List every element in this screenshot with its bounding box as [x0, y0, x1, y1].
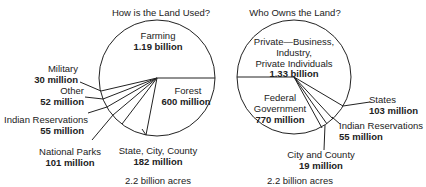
national-parks-label: National Parks [30, 146, 110, 157]
military-label: Military [10, 63, 78, 74]
states-label: States [369, 94, 426, 105]
indian-reservations-label-right: Indian Reservations [339, 120, 426, 131]
forest-value: 600 million [156, 96, 216, 107]
forest-label: Forest [160, 85, 216, 96]
private-label-line1: Private—Business, [244, 36, 344, 47]
private-label-line2: Industry, [244, 47, 344, 58]
federal-label-line2: Government [250, 103, 310, 114]
state-city-county-label: State, City, County [108, 145, 208, 156]
state-city-county-value: 182 million [108, 156, 208, 167]
left-total-label: 2.2 billion acres [108, 175, 208, 186]
farming-label: Farming [128, 30, 188, 41]
city-county-value: 19 million [276, 160, 366, 171]
other-label: Other [20, 85, 84, 96]
left-chart-title: How is the Land Used? [106, 7, 216, 18]
private-value: 1.33 billion [244, 68, 344, 79]
states-value: 103 million [369, 105, 426, 116]
federal-label-line1: Federal [250, 92, 310, 103]
indian-reservations-label-left: Indian Reservations [0, 114, 88, 125]
indian-reservations-value-right: 55 million [339, 131, 419, 142]
right-chart-title: Who Owns the Land? [240, 7, 350, 18]
indian-reservations-value-left: 55 million [0, 125, 84, 136]
federal-value: 770 million [250, 114, 310, 125]
military-value: 30 million [10, 74, 78, 85]
city-county-label: City and County [276, 149, 366, 160]
farming-value: 1.19 billion [128, 41, 188, 52]
other-value: 52 million [20, 96, 84, 107]
national-parks-value: 101 million [30, 157, 110, 168]
right-total-label: 2.2 billion acres [250, 175, 350, 186]
